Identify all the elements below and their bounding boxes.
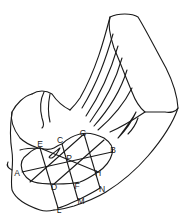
left-cap-outline	[11, 94, 38, 148]
point-label-F: F	[74, 182, 79, 191]
left-lower-boundary	[11, 112, 55, 211]
bottom-contour	[7, 162, 12, 170]
point-label-M: M	[77, 197, 84, 206]
left-cap-inner-2	[49, 94, 51, 122]
grid-line-G-N	[84, 134, 100, 188]
point-label-P: P	[66, 154, 72, 163]
right-leaf-1	[118, 112, 136, 138]
right-leaf-2	[128, 118, 138, 134]
point-label-E: E	[37, 140, 43, 149]
fiber-line-7	[110, 112, 145, 132]
point-label-L: L	[57, 206, 62, 215]
point-label-H: H	[95, 169, 101, 178]
point-label-N: N	[99, 185, 105, 194]
point-label-B: B	[110, 146, 116, 155]
outer-right-boundary	[54, 108, 178, 210]
point-label-A: A	[14, 169, 20, 178]
diagram-figure: A B C D E F G H L M N P	[0, 0, 184, 220]
fiber-line-3	[86, 46, 118, 116]
upper-left-notch	[32, 91, 70, 110]
upper-lobe-outline	[109, 14, 178, 112]
point-label-D: D	[51, 183, 57, 192]
diagram-outline-svg	[0, 0, 184, 220]
left-cap-inner-1	[41, 92, 44, 128]
point-label-G: G	[80, 129, 87, 138]
point-label-C: C	[57, 136, 63, 145]
